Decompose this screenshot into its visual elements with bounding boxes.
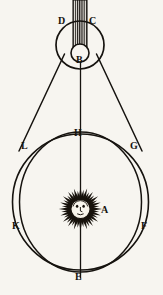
point-label-C: C xyxy=(89,16,96,26)
point-label-A: A xyxy=(101,205,108,215)
point-label-K: K xyxy=(12,221,20,231)
point-label-G: G xyxy=(130,141,138,151)
point-label-B: B xyxy=(76,55,83,65)
hatched-band xyxy=(73,0,87,47)
point-label-D: D xyxy=(58,16,65,26)
point-label-E: E xyxy=(75,272,82,282)
sun-face-eye-right xyxy=(82,205,85,208)
sun-face-eye-left xyxy=(76,205,79,208)
point-label-L: L xyxy=(21,141,28,151)
astronomical-diagram-figure: D C B H L G A K F E xyxy=(0,0,163,295)
point-label-H: H xyxy=(74,128,82,138)
point-label-F: F xyxy=(141,221,147,231)
